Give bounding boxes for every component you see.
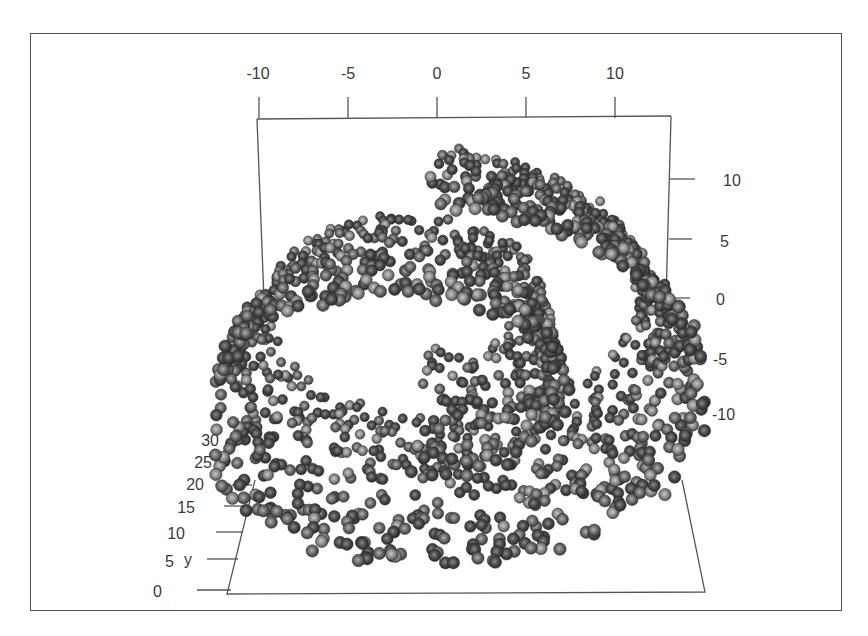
data-point: [539, 411, 551, 423]
data-point: [438, 532, 450, 544]
data-point: [570, 399, 580, 409]
data-point: [444, 155, 454, 165]
data-point: [684, 344, 696, 356]
data-point: [473, 460, 485, 472]
data-point: [672, 443, 684, 455]
data-point: [307, 413, 317, 423]
data-point: [343, 468, 354, 479]
data-point: [463, 363, 473, 373]
data-point: [293, 370, 302, 379]
data-point: [518, 214, 530, 226]
data-point: [335, 228, 344, 237]
data-point: [457, 292, 469, 304]
data-point: [472, 552, 484, 564]
data-point: [499, 159, 508, 168]
data-point: [325, 229, 334, 238]
data-point: [391, 459, 401, 469]
data-point: [328, 510, 340, 522]
data-point: [217, 363, 229, 375]
data-point: [672, 378, 683, 389]
data-point: [444, 353, 453, 362]
data-point: [355, 429, 365, 439]
data-point: [227, 416, 238, 427]
data-point: [241, 310, 253, 322]
data-point: [547, 393, 560, 406]
data-point: [599, 495, 611, 507]
data-point: [503, 303, 515, 315]
y-axis-name: y: [184, 551, 192, 569]
data-point: [253, 306, 265, 318]
data-point: [356, 537, 368, 549]
data-point: [345, 231, 355, 241]
data-point: [512, 242, 521, 251]
z-tick-label: 10: [723, 173, 741, 189]
data-point: [526, 409, 538, 421]
data-point: [449, 181, 461, 193]
data-point: [648, 479, 660, 491]
data-point: [498, 238, 508, 248]
data-point: [532, 276, 542, 286]
data-point: [352, 403, 361, 412]
data-point: [341, 447, 351, 457]
z-tick-label: -5: [713, 352, 727, 368]
data-point: [448, 371, 458, 381]
data-point: [254, 444, 265, 455]
data-point: [434, 159, 444, 169]
data-point: [288, 521, 300, 533]
data-point: [373, 522, 385, 534]
data-point: [265, 487, 277, 499]
data-point: [379, 494, 390, 505]
data-point: [490, 454, 502, 466]
data-point: [520, 186, 531, 197]
data-point: [472, 473, 483, 484]
data-point: [253, 491, 265, 503]
data-point: [605, 248, 617, 260]
data-point: [557, 513, 569, 525]
data-point: [331, 422, 341, 432]
data-point: [240, 504, 252, 516]
data-point: [554, 543, 567, 556]
data-point: [512, 163, 522, 173]
data-point: [535, 179, 545, 189]
x-tick-label: 0: [433, 66, 442, 82]
data-point: [363, 233, 373, 243]
data-point: [634, 486, 646, 498]
data-point: [613, 415, 624, 426]
data-point: [498, 520, 510, 532]
data-point: [271, 505, 283, 517]
data-point: [325, 243, 335, 253]
data-point: [432, 497, 443, 508]
data-point: [591, 397, 601, 407]
data-point: [696, 398, 708, 410]
data-point: [381, 533, 393, 545]
z-tick-label: 5: [720, 234, 729, 250]
data-point: [541, 327, 553, 339]
data-point: [219, 340, 232, 353]
data-point: [360, 412, 369, 421]
data-point: [276, 358, 285, 367]
data-point: [404, 261, 416, 273]
data-point: [256, 352, 266, 362]
data-point: [489, 267, 500, 278]
data-point: [608, 380, 618, 390]
data-point: [287, 381, 297, 391]
data-point: [513, 285, 524, 296]
data-point: [502, 281, 513, 292]
data-point: [266, 347, 275, 356]
data-point: [324, 258, 335, 269]
data-point: [666, 313, 678, 325]
data-point: [630, 385, 640, 395]
data-point: [525, 542, 538, 555]
data-point: [290, 263, 300, 273]
data-point: [655, 388, 666, 399]
data-point: [465, 521, 477, 533]
data-point: [684, 412, 696, 424]
data-point: [433, 423, 444, 434]
data-point: [512, 315, 524, 327]
data-point: [519, 304, 531, 316]
data-point: [420, 425, 431, 436]
scatter-3d-plot: [0, 0, 868, 636]
data-point: [522, 331, 534, 343]
data-point: [658, 351, 669, 362]
data-point: [448, 431, 458, 441]
